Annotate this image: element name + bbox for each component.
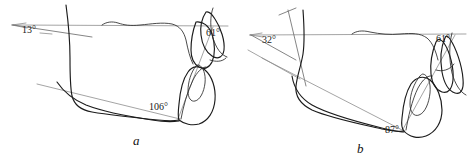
panel-a-angle-label-13: 13° [22,24,36,35]
panel-a-angle-tick-icon [40,33,52,34]
panel-b-label: b [357,141,364,156]
panel-a-angle-label-106: 106° [149,101,168,112]
panel-a-angle-label-61: 61° [206,27,220,38]
line-drawing-figure: 13° 61° 106° a [0,0,471,163]
panel-a: 13° 61° 106° a [12,5,228,148]
panel-a-horizontal-reference-line [12,25,228,26]
panel-b-angle-label-87: 87° [385,124,399,135]
figure-container: 13° 61° 106° a [0,0,471,163]
panel-b-upper-tissue-curve [352,31,438,60]
panel-b: 32° 61° 87° b [248,8,466,156]
panel-a-hoof-capsule-outline [178,67,215,125]
panel-a-label: a [133,133,140,148]
panel-b-angle-label-61: 61° [436,33,450,44]
panel-b-angle-label-32: 32° [262,34,276,45]
panel-b-hoof-capsule-outline [402,77,442,137]
panel-b-dorsal-profile-outline [296,10,404,131]
panel-b-distal-phalanx-outline [410,74,430,115]
panel-a-upper-tissue-curve [102,22,193,64]
panel-b-horizontal-reference-line [250,34,466,35]
panel-b-axis-tick-icon [279,8,296,15]
panel-b-ground-reference-line [262,58,404,131]
